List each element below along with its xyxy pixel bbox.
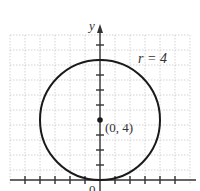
center-point bbox=[97, 117, 103, 123]
y-axis bbox=[96, 30, 104, 191]
origin-label: 0 bbox=[89, 182, 96, 191]
y-axis-label: y bbox=[87, 18, 95, 33]
radius-label: r = 4 bbox=[138, 51, 167, 66]
diagram-canvas: y r = 4 (0, 4) 0 bbox=[0, 0, 200, 191]
center-label: (0, 4) bbox=[105, 120, 133, 135]
y-axis-arrow-icon bbox=[97, 24, 103, 33]
